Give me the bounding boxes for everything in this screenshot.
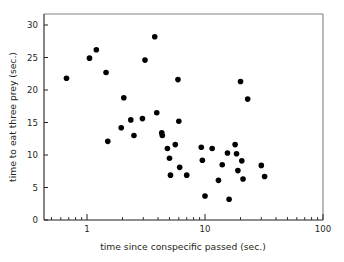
data-point	[219, 162, 225, 168]
data-point	[105, 139, 111, 145]
data-point	[235, 168, 241, 174]
data-point	[262, 174, 268, 180]
y-axis-ticks	[44, 25, 48, 220]
plot-frame	[44, 14, 323, 220]
plot-canvas: 051015202530 110100 time since conspecif…	[0, 0, 344, 262]
data-point	[142, 57, 148, 63]
data-point	[87, 55, 93, 61]
data-point	[239, 158, 245, 164]
y-tick-label: 0	[33, 215, 38, 225]
data-point	[177, 165, 183, 171]
data-point	[200, 157, 206, 163]
data-point	[167, 155, 173, 161]
data-point	[202, 193, 208, 199]
data-point	[121, 95, 127, 101]
x-tick-label: 100	[315, 224, 331, 234]
data-point	[216, 178, 222, 184]
data-point	[103, 70, 109, 76]
data-point	[198, 144, 204, 150]
data-point	[118, 125, 124, 131]
scatter-plot-figure: 051015202530 110100 time since conspecif…	[0, 0, 344, 262]
data-point	[140, 116, 146, 122]
y-tick-label: 5	[33, 183, 38, 193]
y-tick-label: 10	[27, 150, 38, 160]
data-point	[240, 176, 246, 182]
x-axis-label: time since conspecific passed (sec.)	[100, 241, 266, 252]
y-axis-label: time to eat three prey (sec.)	[7, 52, 18, 182]
y-tick-label: 15	[27, 118, 38, 128]
data-point	[152, 34, 158, 40]
data-point	[94, 47, 100, 53]
data-point	[168, 172, 174, 178]
data-point	[160, 133, 166, 139]
data-point	[259, 163, 265, 169]
data-point	[209, 146, 215, 152]
data-point	[225, 150, 231, 156]
data-point	[154, 110, 160, 116]
data-point	[176, 118, 182, 124]
x-tick-label: 10	[200, 224, 211, 234]
data-point	[184, 172, 190, 178]
data-point	[64, 76, 70, 82]
data-point	[226, 196, 232, 202]
x-axis-tick-labels: 110100	[84, 224, 331, 234]
x-tick-label: 1	[84, 224, 89, 234]
data-point	[175, 77, 181, 83]
data-point	[234, 151, 240, 157]
data-points	[64, 34, 268, 202]
data-point	[238, 79, 244, 85]
data-point	[245, 96, 251, 102]
data-point	[232, 142, 238, 148]
data-point	[131, 133, 137, 139]
y-tick-label: 25	[27, 53, 38, 63]
data-point	[172, 142, 178, 148]
y-tick-label: 20	[27, 85, 38, 95]
data-point	[128, 117, 134, 123]
y-tick-label: 30	[27, 20, 38, 30]
y-axis-tick-labels: 051015202530	[27, 20, 38, 225]
data-point	[165, 146, 171, 152]
